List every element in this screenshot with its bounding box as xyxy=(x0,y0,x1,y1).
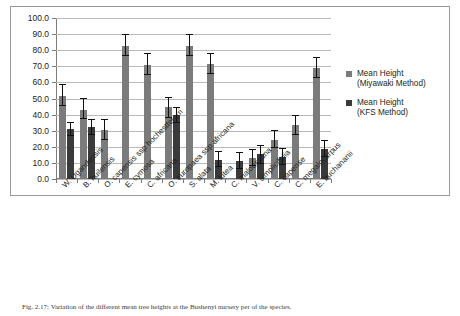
bar-group xyxy=(101,18,122,179)
bar-group xyxy=(207,18,228,179)
error-bar-cap-bottom xyxy=(101,139,108,140)
legend-entry[interactable]: Mean Height(KFS Method) xyxy=(346,98,458,118)
error-bar-cap-top xyxy=(88,119,95,120)
x-axis-category-labels: W. UgandensisB. huilensisO. capensis ssp… xyxy=(55,180,355,300)
error-bar xyxy=(218,151,219,167)
bar-group xyxy=(144,18,165,179)
error-bar-cap-top xyxy=(321,140,328,141)
error-bar-cap-top xyxy=(144,53,151,54)
error-bar-cap-top xyxy=(249,149,256,150)
legend-swatch-icon xyxy=(346,100,352,106)
figure-caption-text: Fig. 2.17: Variation of the different me… xyxy=(22,303,291,311)
y-axis-tick-label: 80.0 xyxy=(3,46,49,55)
error-bar-cap-top xyxy=(101,119,108,120)
error-bar xyxy=(70,122,71,136)
y-axis-tick-label: 30.0 xyxy=(3,127,49,136)
bar xyxy=(207,64,214,179)
y-axis-tick-mark xyxy=(52,147,56,148)
y-axis-tick-label: 90.0 xyxy=(3,30,49,39)
error-bar xyxy=(91,119,92,134)
error-bar xyxy=(62,84,63,106)
bar-group xyxy=(165,18,186,179)
error-bar-cap-bottom xyxy=(271,147,278,148)
error-bar-cap-bottom xyxy=(144,74,151,75)
error-bar-cap-top xyxy=(59,84,66,85)
error-bar-cap-bottom xyxy=(313,77,320,78)
error-bar xyxy=(125,34,126,56)
error-bar-cap-bottom xyxy=(207,73,214,74)
error-bar-cap-top xyxy=(313,57,320,58)
error-bar-cap-top xyxy=(236,152,243,153)
y-axis-tick-mark xyxy=(52,115,56,116)
error-bar-cap-bottom xyxy=(292,134,299,135)
error-bar xyxy=(104,119,105,141)
error-bar-cap-top xyxy=(271,130,278,131)
error-bar-cap-top xyxy=(165,97,172,98)
error-bar-cap-top xyxy=(80,98,87,99)
error-bar xyxy=(83,98,84,120)
y-axis-tick-mark xyxy=(52,99,56,100)
y-axis-tick-mark xyxy=(52,82,56,83)
figure-caption: Fig. 2.17: Variation of the different me… xyxy=(22,303,442,316)
y-axis-tick-label: 20.0 xyxy=(3,143,49,152)
error-bar-cap-bottom xyxy=(186,55,193,56)
y-axis-tick-mark xyxy=(52,163,56,164)
y-axis-tick-label: 40.0 xyxy=(3,111,49,120)
error-bar xyxy=(168,97,169,118)
error-bar-cap-bottom xyxy=(122,55,129,56)
y-axis-tick-mark xyxy=(52,131,56,132)
error-bar-cap-bottom xyxy=(59,105,66,106)
error-bar-cap-top xyxy=(257,145,264,146)
y-axis-tick-mark xyxy=(52,66,56,67)
bar xyxy=(59,96,66,179)
error-bar-cap-bottom xyxy=(67,135,74,136)
error-bar xyxy=(239,152,240,170)
y-axis-tick-mark xyxy=(52,50,56,51)
error-bar xyxy=(189,34,190,56)
y-axis-tick-label: 100.0 xyxy=(3,14,49,23)
error-bar-cap-bottom xyxy=(80,118,87,119)
bar-group xyxy=(292,18,313,179)
error-bar xyxy=(274,130,275,149)
legend-label-line2: (KFS Method) xyxy=(357,108,458,118)
y-axis-tick-label: 10.0 xyxy=(3,159,49,168)
y-axis-tick-label: 50.0 xyxy=(3,95,49,104)
legend-label-line2: (Miyawaki Method) xyxy=(357,79,458,89)
error-bar-cap-top xyxy=(207,53,214,54)
legend-label-line1: Mean Height xyxy=(357,98,403,107)
error-bar-cap-bottom xyxy=(215,166,222,167)
y-axis-tick-label: 0.0 xyxy=(3,175,49,184)
error-bar xyxy=(295,115,296,135)
y-axis-tick-mark xyxy=(52,34,56,35)
error-bar xyxy=(210,53,211,74)
legend-label-line1: Mean Height xyxy=(357,69,403,78)
y-axis-tick-label: 60.0 xyxy=(3,78,49,87)
legend-entry[interactable]: Mean Height(Miyawaki Method) xyxy=(346,69,458,89)
y-axis-tick-label: 70.0 xyxy=(3,62,49,71)
bar-group xyxy=(59,18,80,179)
error-bar-cap-bottom xyxy=(88,134,95,135)
chart-legend: Mean Height(Miyawaki Method)Mean Height(… xyxy=(346,69,458,127)
error-bar-cap-top xyxy=(292,115,299,116)
y-axis-tick-mark xyxy=(52,18,56,19)
bar-group xyxy=(228,18,249,179)
error-bar-cap-top xyxy=(215,151,222,152)
error-bar-cap-top xyxy=(67,122,74,123)
error-bar xyxy=(147,53,148,75)
legend-swatch-icon xyxy=(346,71,352,77)
error-bar xyxy=(316,57,317,77)
error-bar-cap-top xyxy=(122,34,129,35)
error-bar-cap-top xyxy=(186,34,193,35)
